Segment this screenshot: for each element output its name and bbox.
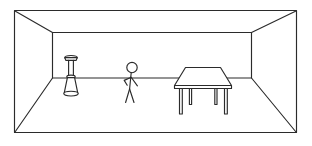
person-head <box>127 62 137 72</box>
lamp-shade-body <box>65 58 77 61</box>
table-leg-front-left <box>180 89 183 115</box>
floor-edge-right <box>252 78 297 132</box>
outer-frame <box>15 11 297 133</box>
person-right-leg <box>130 89 134 103</box>
room-line-drawing <box>0 0 312 146</box>
lamp-foot <box>64 91 78 96</box>
floor-lamp <box>64 56 78 97</box>
table-leg-back-right <box>215 89 217 105</box>
table <box>175 68 232 115</box>
scene-root: Line drawing of an empty room interior A… <box>0 0 312 146</box>
table-leg-back-left <box>189 89 191 105</box>
stick-figure-person <box>124 62 137 102</box>
table-leg-front-right <box>225 89 228 115</box>
ceiling-edge-left <box>15 11 53 33</box>
person-torso <box>130 73 132 89</box>
room-structure <box>15 11 296 132</box>
person-left-leg <box>126 89 130 103</box>
ceiling-edge-right <box>252 11 297 33</box>
table-top <box>175 68 232 86</box>
floor-edge-left <box>15 78 53 132</box>
table-top-edge <box>175 86 232 89</box>
